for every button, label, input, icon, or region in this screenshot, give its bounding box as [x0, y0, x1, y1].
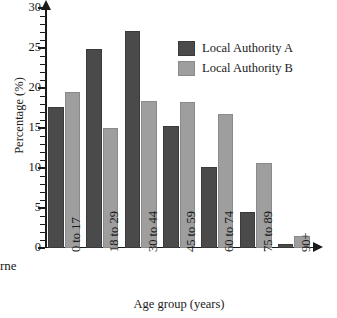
- x-tick-label: 75 to 89: [262, 211, 275, 252]
- y-tick-label: 25: [29, 41, 42, 54]
- y-tick-label: 0: [35, 241, 41, 254]
- bar-a: [201, 167, 217, 248]
- x-axis-arrow-icon: [313, 242, 323, 252]
- bar-a: [278, 244, 294, 248]
- legend-label: Local Authority B: [202, 62, 293, 75]
- legend-swatch-icon: [178, 41, 195, 56]
- legend-item: Local Authority A: [178, 40, 293, 56]
- y-tick-label: 10: [29, 161, 42, 174]
- x-tick-label: 45 to 59: [185, 211, 198, 252]
- x-tick-label: 60 to 74: [223, 211, 236, 252]
- legend-item: Local Authority B: [178, 60, 293, 76]
- y-tick-label: 15: [29, 121, 42, 134]
- bar-a: [48, 107, 64, 248]
- bar-chart: 051015202530 Percentage (%) 0 to 1718 to…: [0, 0, 337, 318]
- x-axis-title: Age group (years): [45, 297, 313, 312]
- chart-legend: Local Authority ALocal Authority B: [178, 40, 293, 80]
- x-tick-label: 18 to 29: [108, 211, 121, 252]
- y-tick-label: 20: [29, 81, 42, 94]
- legend-label: Local Authority A: [202, 42, 293, 55]
- bar-a: [240, 212, 256, 248]
- bar-a: [86, 49, 102, 248]
- legend-swatch-icon: [178, 61, 195, 76]
- y-tick-label: 5: [35, 201, 41, 214]
- bar-a: [163, 126, 179, 248]
- edge-text-fragment: rne: [0, 258, 17, 274]
- x-tick-label: 30 to 44: [147, 211, 160, 252]
- y-axis-title: Percentage (%): [12, 61, 27, 171]
- x-tick-label: 90+: [300, 232, 313, 252]
- bar-a: [125, 31, 141, 248]
- x-tick-label: 0 to 17: [70, 217, 83, 252]
- y-tick-label: 30: [29, 1, 42, 14]
